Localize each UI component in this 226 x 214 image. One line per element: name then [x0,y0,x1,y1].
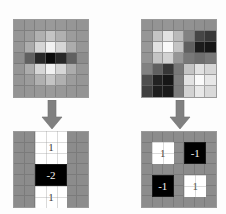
filter-cell [35,31,46,42]
filter-cell [67,31,78,42]
filter-cell [205,64,216,75]
kernel-background-cell [174,186,185,197]
filter-cell [14,31,25,42]
filter-cell [205,42,216,53]
filter-cell [46,86,57,97]
filter-cell [46,20,57,31]
filter-cell [35,20,46,31]
filter-cell [35,75,46,86]
kernel-background-cell [14,132,25,143]
kernel-value-label: 1 [192,181,198,192]
kernel-background-cell [14,164,25,175]
kernel-background-cell [14,153,25,164]
filter-cell [153,75,164,86]
kernel-background-cell [205,132,216,143]
kernel-background-cell [14,186,25,197]
kernel-background-cell [163,164,174,175]
kernel-background-cell [184,196,195,207]
kernel-cell-lower-right-positive: 1 [184,175,206,197]
filter-cell [14,64,25,75]
filter-cell [67,20,78,31]
filter-cell [46,75,57,86]
filter-cell [174,20,185,31]
filter-cell [195,42,206,53]
filter-cell [77,31,88,42]
filter-cell [25,20,36,31]
filter-cell [56,31,67,42]
kernel-cell-upper-left-positive: 1 [152,142,174,164]
kernel-value-label: -1 [191,148,200,159]
kernel-background-cell [25,196,36,207]
kernel-background-cell [184,164,195,175]
panel-bottom-right-kernel: 1 -1 -1 1 [141,131,217,208]
filter-cell [142,75,153,86]
kernel-background-cell [195,164,206,175]
filter-cell [35,42,46,53]
down-arrow-icon-right [169,100,191,130]
filter-cell [184,64,195,75]
filter-cell [174,86,185,97]
filter-cell [14,42,25,53]
filter-cell [142,64,153,75]
filter-cell [77,75,88,86]
kernel-background-cell [153,196,164,207]
filter-cell [174,53,185,64]
filter-cell [25,42,36,53]
kernel-background-cell [77,132,88,143]
filter-cell [46,42,57,53]
filter-cell [56,42,67,53]
kernel-background-cell [14,175,25,186]
filter-cell [67,86,78,97]
filter-cell [25,75,36,86]
filter-cell [163,75,174,86]
filter-cell [195,75,206,86]
kernel-background-cell [67,153,78,164]
kernel-background-cell [174,153,185,164]
filter-cell [46,31,57,42]
filter-cell [195,64,206,75]
filter-cell [77,86,88,97]
kernel-background-cell [142,196,153,207]
kernel-value-label: -2 [46,170,55,181]
kernel-background-cell [67,143,78,154]
filter-cell [14,75,25,86]
filter-cell [35,64,46,75]
filter-cell [205,31,216,42]
kernel-background-cell [142,164,153,175]
filter-cell [153,42,164,53]
kernel-background-cell [77,186,88,197]
filter-cell [195,31,206,42]
filter-cell [142,53,153,64]
kernel-background-cell [77,143,88,154]
filter-cell [142,31,153,42]
filter-cell [56,86,67,97]
kernel-background-cell [205,186,216,197]
filter-cell [153,20,164,31]
filter-cell [184,31,195,42]
filter-cell [56,64,67,75]
filter-cell [205,86,216,97]
filter-cell [67,53,78,64]
filter-cell [153,86,164,97]
kernel-background-cell [205,164,216,175]
kernel-cell-upper-right-negative: -1 [184,142,206,164]
kernel-background-cell [25,153,36,164]
filter-cell [205,53,216,64]
filter-cell [184,53,195,64]
filter-cell [142,42,153,53]
kernel-background-cell [67,186,78,197]
filter-cell [77,53,88,64]
kernel-value-label: 1 [48,142,54,153]
filter-cell [174,42,185,53]
filter-cell [46,53,57,64]
filter-cell [163,20,174,31]
filter-cell [174,31,185,42]
kernel-background-cell [77,164,88,175]
panel-top-left-filter [13,19,89,98]
filter-cell [142,86,153,97]
filter-cell [25,53,36,64]
filter-cell [67,75,78,86]
kernel-background-cell [163,196,174,207]
kernel-background-cell [205,153,216,164]
filter-cell [163,31,174,42]
